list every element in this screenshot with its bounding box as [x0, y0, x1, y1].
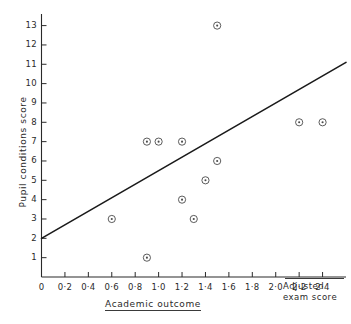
scatter-plot-figure: Pupil conditions score Academic outcome … [0, 0, 351, 324]
data-point [214, 22, 221, 29]
plot-canvas [0, 0, 351, 324]
data-point [214, 157, 221, 164]
y-tick-label: 4 [14, 195, 37, 204]
data-point-center [298, 121, 300, 123]
data-point-center [216, 160, 218, 162]
y-tick-label: 12 [14, 40, 37, 49]
y-tick-label: 10 [14, 79, 37, 88]
data-point-center [146, 257, 148, 259]
data-point [155, 138, 162, 145]
data-point-center [204, 179, 206, 181]
right-axis-caption-line2: exam score [283, 292, 347, 303]
data-point-center [181, 141, 183, 143]
y-tick-label: 13 [14, 21, 37, 30]
y-tick-label: 5 [14, 176, 37, 185]
y-tick-label: 3 [14, 214, 37, 223]
data-points-group [108, 22, 326, 261]
data-point-center [181, 199, 183, 201]
data-point [202, 177, 209, 184]
data-point [190, 215, 197, 222]
data-point [178, 196, 185, 203]
y-tick-label: 6 [14, 156, 37, 165]
data-point [143, 138, 150, 145]
data-point [178, 138, 185, 145]
y-axis-ticks [42, 26, 47, 258]
y-tick-label: 11 [14, 60, 37, 69]
x-axis-ticks [65, 272, 323, 277]
y-tick-label: 2 [14, 234, 37, 243]
y-tick-label: 8 [14, 118, 37, 127]
data-point-center [146, 141, 148, 143]
x-axis-title: Academic outcome [78, 299, 228, 309]
y-axis-title: Pupil conditions score [18, 72, 28, 232]
data-point-center [322, 121, 324, 123]
x-tick-label: 2·4 [309, 283, 337, 292]
data-point [319, 119, 326, 126]
x-axis-title-text: Academic outcome [105, 299, 201, 311]
data-point [108, 215, 115, 222]
y-tick-label: 9 [14, 98, 37, 107]
data-point-center [193, 218, 195, 220]
data-point-center [111, 218, 113, 220]
data-point-center [158, 141, 160, 143]
data-point [143, 254, 150, 261]
y-tick-label: 1 [14, 253, 37, 262]
data-point-center [216, 25, 218, 27]
regression-line [42, 62, 347, 238]
y-tick-label: 7 [14, 137, 37, 146]
data-point [296, 119, 303, 126]
